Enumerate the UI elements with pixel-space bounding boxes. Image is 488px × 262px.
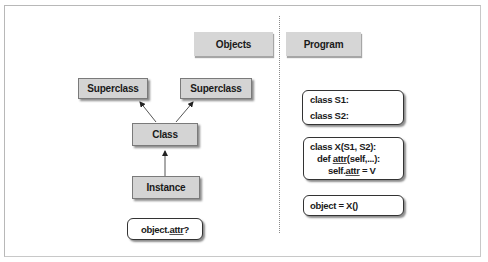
superclass-left-label: Superclass bbox=[87, 83, 138, 94]
code-line-class-x: class X(S1, S2): bbox=[310, 141, 376, 152]
query-prefix: object. bbox=[141, 224, 170, 235]
class-label: Class bbox=[152, 129, 178, 140]
self-attr-name: attr bbox=[346, 165, 360, 176]
self-assign-value: = V bbox=[360, 165, 376, 176]
code-block-superclasses: class S1: class S2: bbox=[302, 90, 404, 125]
code-line-object: object = X() bbox=[310, 200, 358, 211]
attribute-query-box: object.attr? bbox=[127, 218, 203, 240]
superclass-left-box: Superclass bbox=[78, 78, 148, 99]
arrow-class-to-superclass-left bbox=[140, 102, 156, 122]
arrow-class-to-superclass-right bbox=[176, 102, 193, 122]
class-box: Class bbox=[132, 123, 198, 146]
instance-label: Instance bbox=[147, 182, 186, 193]
superclass-right-box: Superclass bbox=[180, 78, 252, 99]
code-block-instance: object = X() bbox=[303, 195, 404, 216]
def-attr-name: attr bbox=[333, 153, 347, 164]
def-params: (self,...): bbox=[347, 153, 380, 164]
query-attr: attr bbox=[169, 224, 183, 235]
code-line-s1: class S1: bbox=[310, 94, 349, 105]
inheritance-arrows bbox=[0, 0, 488, 262]
instance-box: Instance bbox=[132, 176, 200, 199]
code-line-def-attr: def attr(self,...): bbox=[317, 153, 380, 164]
query-suffix: ? bbox=[184, 224, 190, 235]
code-line-s2: class S2: bbox=[310, 110, 349, 121]
self-prefix: self. bbox=[328, 165, 346, 176]
superclass-right-label: Superclass bbox=[190, 83, 241, 94]
def-keyword: def bbox=[317, 153, 333, 164]
code-block-class-x: class X(S1, S2): def attr(self,...): sel… bbox=[303, 137, 404, 180]
code-line-self-attr: self.attr = V bbox=[328, 165, 376, 176]
